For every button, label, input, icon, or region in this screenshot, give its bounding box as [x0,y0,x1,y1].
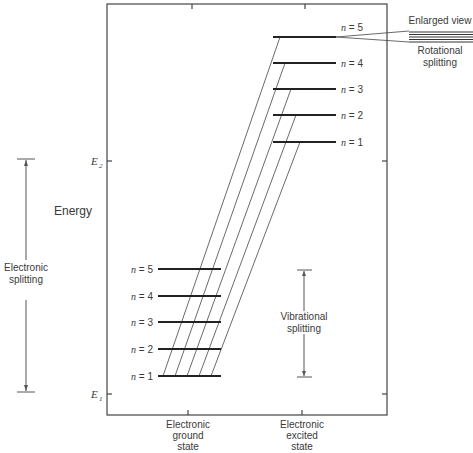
transition-to-n5 [163,37,280,376]
svg-text:Vibrational: Vibrational [280,311,327,322]
svg-text:state: state [291,441,313,452]
excited-level-labels: n = 5 n = 4 n = 3 n = 2 n = 1 [341,22,363,148]
excited-state-label: Electronic excited state [280,419,324,452]
energy-marker-e2: E 2 [90,155,103,170]
rotational-splitting-label: Rotational splitting [417,45,462,68]
svg-text:state: state [177,441,199,452]
svg-text:n = 3: n = 3 [131,317,153,328]
excited-state-levels [273,37,336,142]
svg-text:excited: excited [286,430,318,441]
svg-text:E: E [90,388,98,400]
energy-marker-e1: E 1 [90,388,103,403]
transition-to-n3 [187,89,291,376]
svg-text:Rotational: Rotational [417,45,462,56]
svg-text:n = 1: n = 1 [131,371,153,382]
enlarged-view-label: Enlarged view [409,15,473,26]
svg-text:n = 1: n = 1 [341,137,363,148]
svg-text:splitting: splitting [423,57,457,68]
ground-state-levels [158,269,221,376]
svg-text:Electronic: Electronic [4,262,48,273]
svg-text:n = 4: n = 4 [131,291,153,302]
transition-to-n4 [175,63,285,376]
rotational-lines [409,32,473,42]
svg-text:Electronic: Electronic [280,419,324,430]
ground-level-labels: n = 5 n = 4 n = 3 n = 2 n = 1 [131,264,153,382]
svg-text:n = 5: n = 5 [341,22,363,33]
svg-text:1: 1 [99,395,103,403]
electronic-splitting-label: Electronic splitting [4,262,48,285]
vibrational-splitting-label: Vibrational splitting [280,311,327,334]
svg-text:ground: ground [172,430,203,441]
svg-text:E: E [90,155,98,167]
svg-text:splitting: splitting [9,274,43,285]
svg-text:n = 4: n = 4 [341,58,363,69]
svg-text:n = 2: n = 2 [341,110,363,121]
svg-text:n = 2: n = 2 [131,344,153,355]
ground-state-label: Electronic ground state [166,419,210,452]
energy-level-diagram: E 2 E 1 Energy Electronic splitting Vibr… [0,0,473,453]
transition-lines [163,37,300,376]
svg-text:Electronic: Electronic [166,419,210,430]
transition-to-n2 [199,115,296,376]
svg-text:n = 3: n = 3 [341,84,363,95]
energy-axis-label: Energy [54,204,92,218]
svg-text:splitting: splitting [287,323,321,334]
svg-text:2: 2 [99,162,103,170]
svg-text:n = 5: n = 5 [131,264,153,275]
transition-to-n1 [211,142,300,376]
